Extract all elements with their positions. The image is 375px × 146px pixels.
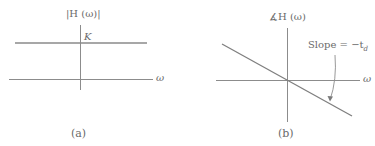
panel-a-k-label: K bbox=[84, 32, 91, 42]
panel-a-y-label: |H (ω)| bbox=[66, 9, 101, 19]
phase-label-text: ∡H (ω) bbox=[269, 11, 306, 22]
panel-b-caption: (b) bbox=[278, 128, 294, 139]
panel-a-caption: (a) bbox=[71, 128, 86, 139]
diagram-canvas bbox=[0, 0, 375, 146]
slope-arrow-icon bbox=[330, 55, 335, 100]
slope-arrowhead-icon bbox=[328, 96, 334, 102]
panel-b-y-label: ∡H (ω) bbox=[269, 12, 306, 22]
slope-annotation: Slope = −td bbox=[308, 40, 368, 53]
panel-a-omega-label: ω bbox=[156, 73, 164, 83]
panel-a-graph bbox=[9, 25, 153, 90]
magnitude-label-text: |H (ω)| bbox=[66, 8, 101, 19]
slope-annotation-text: Slope = −t bbox=[308, 39, 364, 50]
panel-b-omega-label: ω bbox=[363, 74, 371, 84]
slope-annotation-subscript: d bbox=[364, 45, 368, 53]
